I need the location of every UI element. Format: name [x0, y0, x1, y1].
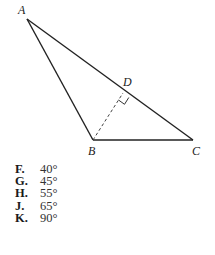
choice-letter: G.	[15, 175, 40, 187]
choice-value: 45°	[40, 175, 58, 187]
choice-letter: H.	[15, 187, 40, 199]
choice-value: 55°	[40, 187, 58, 199]
choice-h[interactable]: H. 55°	[15, 187, 58, 199]
choice-letter: F.	[15, 163, 40, 175]
choice-value: 90°	[40, 212, 58, 224]
answer-choices: F. 40° G. 45° H. 55° J. 65° K. 90°	[15, 163, 58, 224]
vertex-label-b: B	[88, 144, 96, 158]
segment-ab	[27, 19, 93, 140]
choice-letter: J.	[15, 200, 40, 212]
choice-k[interactable]: K. 90°	[15, 212, 58, 224]
choice-letter: K.	[15, 212, 40, 224]
triangle-figure: A B C D	[0, 0, 215, 160]
segment-ac	[27, 19, 193, 140]
choice-j[interactable]: J. 65°	[15, 200, 58, 212]
vertex-label-c: C	[192, 144, 201, 158]
choice-value: 65°	[40, 200, 58, 212]
vertex-label-a: A	[17, 3, 26, 17]
choice-value: 40°	[40, 163, 58, 175]
vertex-label-d: D	[122, 75, 132, 89]
